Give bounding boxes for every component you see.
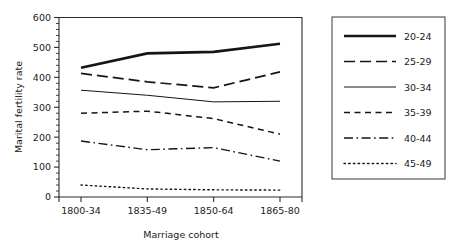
y-axis-label: Marital fertility rate xyxy=(13,61,24,153)
series-line-20-24 xyxy=(81,44,280,68)
series-line-35-39 xyxy=(81,111,280,134)
legend-item-label: 40-44 xyxy=(404,133,432,144)
y-tick-label: 200 xyxy=(33,132,51,143)
y-tick-label: 0 xyxy=(45,191,51,202)
x-axis: 1800-341835-491850-641865-80 xyxy=(59,197,302,216)
legend-item-25-29[interactable]: 25-29 xyxy=(344,56,432,67)
legend-item-label: 20-24 xyxy=(404,31,432,42)
x-tick-label: 1850-64 xyxy=(194,205,234,216)
series-line-30-34 xyxy=(81,90,280,102)
y-tick-label: 500 xyxy=(33,42,51,53)
series-line-40-44 xyxy=(81,141,280,161)
fertility-line-chart: 0100200300400500600 1800-341835-491850-6… xyxy=(0,0,457,246)
legend-item-35-39[interactable]: 35-39 xyxy=(344,107,432,118)
legend-item-40-44[interactable]: 40-44 xyxy=(344,133,432,144)
legend-item-45-49[interactable]: 45-49 xyxy=(344,158,432,169)
series-lines xyxy=(81,44,280,190)
figure-container: 0100200300400500600 1800-341835-491850-6… xyxy=(0,0,457,246)
y-tick-label: 400 xyxy=(33,72,51,83)
series-line-45-49 xyxy=(81,185,280,190)
legend: 20-2425-2930-3435-3940-4445-49 xyxy=(332,17,445,179)
legend-item-label: 35-39 xyxy=(404,107,432,118)
series-line-25-29 xyxy=(81,72,280,88)
legend-item-20-24[interactable]: 20-24 xyxy=(344,31,432,42)
legend-item-30-34[interactable]: 30-34 xyxy=(344,82,432,93)
x-tick-label: 1800-34 xyxy=(61,205,101,216)
y-tick-label: 600 xyxy=(33,12,51,23)
legend-item-label: 30-34 xyxy=(404,82,432,93)
legend-item-label: 25-29 xyxy=(404,56,432,67)
y-tick-label: 100 xyxy=(33,161,51,172)
x-axis-label: Marriage cohort xyxy=(143,229,219,240)
x-tick-label: 1865-80 xyxy=(260,205,300,216)
y-axis: 0100200300400500600 xyxy=(33,12,59,203)
legend-item-label: 45-49 xyxy=(404,158,432,169)
x-tick-label: 1835-49 xyxy=(127,205,167,216)
y-tick-label: 300 xyxy=(33,102,51,113)
